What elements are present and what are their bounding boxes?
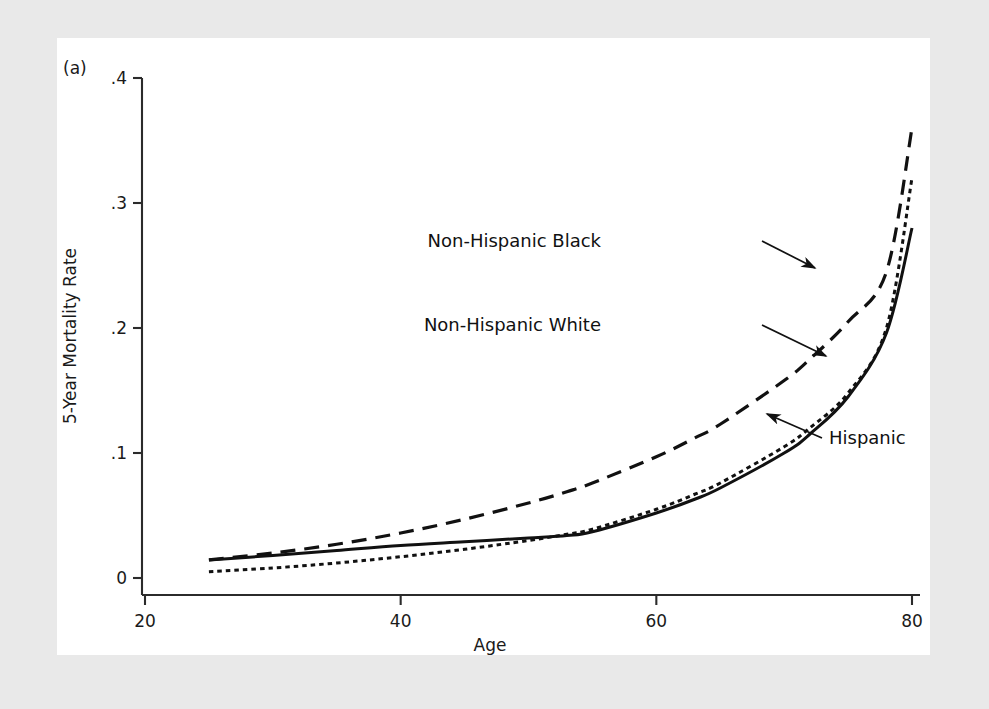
annotation-leader-line — [762, 241, 815, 268]
y-axis-title: 5-Year Mortality Rate — [60, 248, 80, 424]
series-line-non-hispanic-black — [209, 128, 912, 560]
series-line-hispanic — [209, 228, 912, 560]
x-axis-ticks — [145, 595, 912, 605]
panel-label: (a) — [63, 58, 87, 78]
y-tick-label: .2 — [111, 318, 127, 338]
series-lines — [209, 128, 912, 572]
y-axis-tick-labels: 0.1.2.3.4 — [111, 68, 127, 588]
annotation-label: Hispanic — [829, 427, 906, 448]
y-tick-label: 0 — [116, 568, 127, 588]
x-axis-tick-labels: 20406080 — [134, 611, 923, 631]
x-tick-label: 80 — [901, 611, 923, 631]
x-tick-label: 40 — [390, 611, 412, 631]
annotation-label: Non-Hispanic Black — [428, 230, 602, 251]
annotation-leader-line — [762, 325, 826, 356]
x-tick-label: 60 — [646, 611, 668, 631]
y-tick-label: .1 — [111, 443, 127, 463]
annotation-label: Non-Hispanic White — [424, 314, 601, 335]
y-tick-label: .3 — [111, 193, 127, 213]
y-axis-ticks — [133, 78, 142, 578]
x-axis-title: Age — [474, 635, 507, 655]
y-tick-label: .4 — [111, 68, 127, 88]
x-tick-label: 20 — [134, 611, 156, 631]
mortality-rate-chart: (a) 0.1.2.3.4 20406080 Age 5-Year Mortal… — [0, 0, 989, 709]
